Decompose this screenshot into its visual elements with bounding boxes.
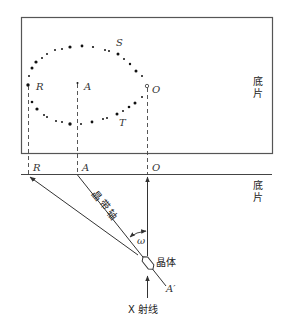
diffracted-beam-arrow [30, 177, 138, 255]
crystal-icon [140, 255, 155, 272]
label-t: T [119, 117, 127, 128]
film-label-bottom-1: 底 [253, 179, 263, 191]
projection-lines [29, 84, 148, 174]
axis-end-label: A′ [165, 283, 176, 294]
label-s: S [116, 37, 123, 48]
zone-axis-diffraction-diagram: R A O S T 底 片 R A O 底 片 ω 晶 带 轴 晶体 A′ X … [0, 0, 290, 333]
proj-label-r: R [32, 162, 41, 173]
omega-label: ω [137, 235, 145, 246]
proj-label-a: A [81, 162, 89, 173]
film-label-bottom-2: 片 [253, 191, 263, 203]
label-r: R [35, 81, 44, 92]
zone-axis-label: 晶 带 轴 [90, 188, 121, 222]
point-o-marker [145, 84, 148, 87]
film-label-top-1: 底 [253, 75, 263, 87]
xray-label: X 射线 [128, 303, 158, 315]
proj-label-o: O [152, 162, 160, 173]
crystal-label: 晶体 [156, 257, 176, 268]
point-a-marker [77, 82, 79, 84]
film-label-top-2: 片 [253, 87, 263, 99]
label-o: O [152, 84, 160, 95]
label-a: A [83, 81, 91, 92]
